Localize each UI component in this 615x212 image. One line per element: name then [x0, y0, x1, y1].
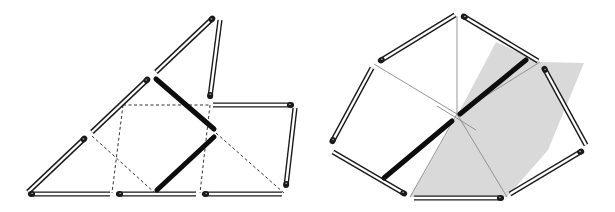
- match-head-highlight: [210, 18, 212, 19]
- matchstick: [28, 134, 89, 192]
- matchstick: [377, 15, 455, 65]
- match-head-highlight: [119, 193, 121, 194]
- match-head-icon: [116, 191, 123, 197]
- match-head-highlight: [332, 139, 334, 140]
- right-figure-polygon: [328, 12, 586, 201]
- matchstick: [283, 108, 295, 188]
- matchstick: [28, 191, 110, 197]
- matchstick: [414, 195, 504, 201]
- match-head-highlight: [499, 197, 501, 198]
- match-head-icon: [287, 102, 294, 108]
- match-head-highlight: [579, 151, 581, 152]
- match-head-highlight: [381, 59, 383, 60]
- match-head-highlight: [402, 192, 404, 193]
- match-head-icon: [497, 195, 504, 201]
- match-head-highlight: [82, 138, 84, 139]
- left-figure-triangle: [28, 14, 295, 197]
- match-head-highlight: [285, 183, 287, 184]
- shaded-region: [410, 42, 584, 197]
- match-head-icon: [28, 191, 35, 197]
- dashed-guide-line: [92, 136, 155, 193]
- matchstick: [333, 152, 408, 198]
- matchstick: [156, 14, 217, 72]
- matchstick: [207, 20, 220, 99]
- match-head-highlight: [209, 94, 211, 95]
- match-head-highlight: [145, 79, 147, 80]
- thin-radial-line: [374, 64, 457, 114]
- matchstick: [213, 102, 294, 108]
- dashed-guide-line: [112, 105, 123, 193]
- match-head-highlight: [289, 104, 291, 105]
- dashed-guide-line: [216, 133, 284, 193]
- match-head-highlight: [544, 69, 546, 70]
- matchstick: [92, 75, 152, 132]
- match-head-highlight: [464, 16, 466, 17]
- thick-stick: [156, 79, 214, 129]
- match-head-icon: [202, 191, 209, 197]
- matchstick: [202, 191, 282, 197]
- match-head-highlight: [31, 193, 33, 194]
- match-head-highlight: [205, 193, 207, 194]
- matchstick: [328, 68, 372, 145]
- matchstick-puzzle-diagram: [0, 0, 615, 212]
- thick-stick: [157, 137, 214, 190]
